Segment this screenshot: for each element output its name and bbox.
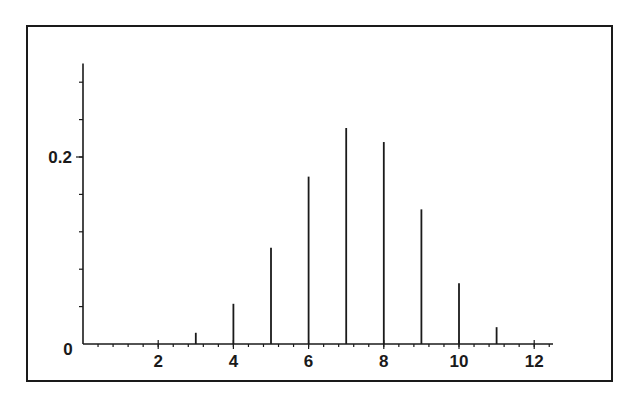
y-tick-label: 0.2 [48, 148, 72, 167]
data-stems [196, 128, 497, 344]
x-tick-label: 8 [379, 352, 388, 371]
chart-frame [27, 26, 612, 381]
tick-labels: 00.224681012 [48, 148, 543, 371]
x-tick-label: 2 [153, 352, 162, 371]
x-tick-label: 4 [229, 352, 239, 371]
stem-chart: 00.224681012 [0, 0, 632, 401]
x-tick-label: 6 [304, 352, 313, 371]
x-tick-label: 12 [525, 352, 544, 371]
axis-ticks [76, 82, 549, 349]
axes [83, 64, 553, 345]
x-tick-label: 10 [450, 352, 469, 371]
y-tick-label: 0 [63, 340, 72, 359]
